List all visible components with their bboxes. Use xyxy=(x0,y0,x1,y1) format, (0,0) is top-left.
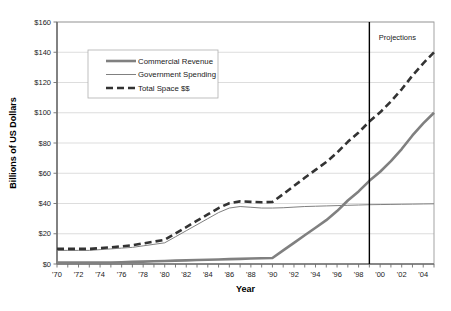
y-tick-label: $20 xyxy=(38,229,51,238)
chart-legend[interactable]: Commercial RevenueGovernment SpendingTot… xyxy=(88,50,218,98)
x-tick-label: '92 xyxy=(289,270,299,279)
x-tick-label: '00 xyxy=(375,270,385,279)
line-chart: '70'72'74'76'78'80'82'84'86'88'90'92'94'… xyxy=(0,0,451,311)
y-tick-label: $140 xyxy=(34,48,51,57)
projections-label: Projections xyxy=(379,33,416,42)
legend-item-label[interactable]: Government Spending xyxy=(138,70,216,79)
y-tick-label: $40 xyxy=(38,199,51,208)
y-tick-label: $120 xyxy=(34,78,51,87)
x-tick-label: '84 xyxy=(203,270,213,279)
x-tick-label: '88 xyxy=(246,270,256,279)
x-tick-label: '82 xyxy=(181,270,191,279)
y-tick-label: $160 xyxy=(34,18,51,27)
x-tick-label: '74 xyxy=(95,270,105,279)
x-tick-label: '72 xyxy=(74,270,84,279)
x-tick-label: '86 xyxy=(224,270,234,279)
x-tick-label: '80 xyxy=(160,270,170,279)
x-tick-label: '90 xyxy=(268,270,278,279)
x-tick-label: '94 xyxy=(311,270,321,279)
legend-item-label[interactable]: Commercial Revenue xyxy=(138,57,213,66)
x-tick-label: '70 xyxy=(52,270,62,279)
x-tick-label: '76 xyxy=(117,270,127,279)
x-tick-label: '96 xyxy=(332,270,342,279)
y-tick-label: $0 xyxy=(43,260,51,269)
x-tick-label: '98 xyxy=(354,270,364,279)
y-tick-label: $100 xyxy=(34,108,51,117)
x-tick-label: '04 xyxy=(418,270,428,279)
legend-item-label[interactable]: Total Space $$ xyxy=(138,84,190,93)
y-axis-title: Billions of US Dollars xyxy=(8,97,18,189)
x-axis-title: Year xyxy=(236,284,256,294)
y-tick-label: $60 xyxy=(38,169,51,178)
y-tick-label: $80 xyxy=(38,139,51,148)
x-tick-label: '78 xyxy=(138,270,148,279)
chart-container: '70'72'74'76'78'80'82'84'86'88'90'92'94'… xyxy=(0,0,451,311)
x-tick-label: '02 xyxy=(397,270,407,279)
